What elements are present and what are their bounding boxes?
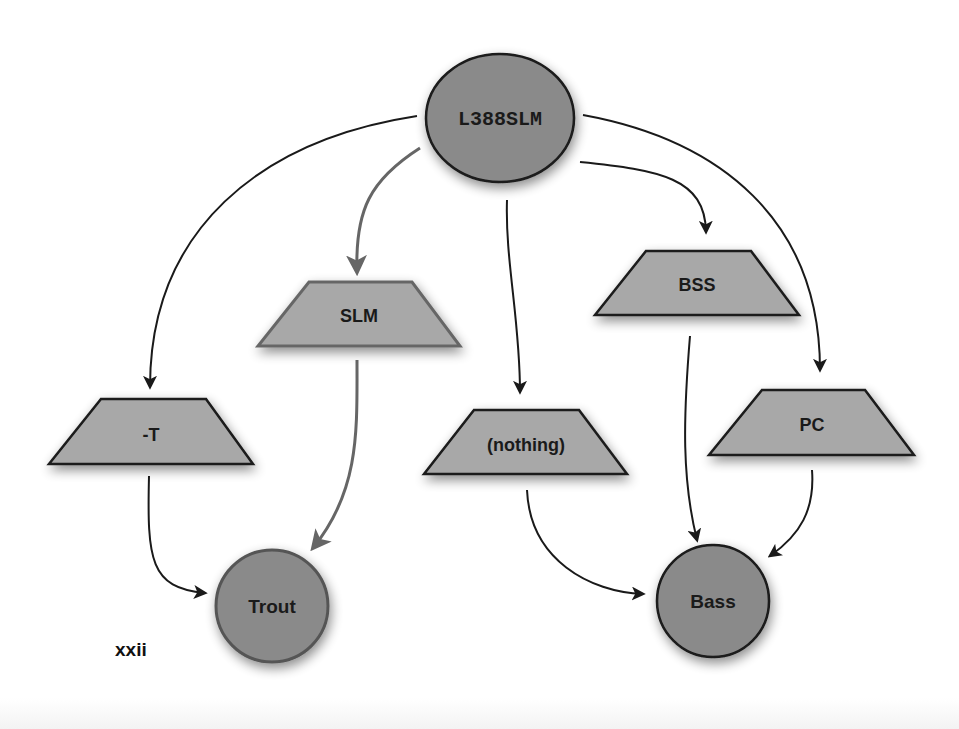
diagram-canvas: L388SLM -T SLM (nothing) BSS PC Trout — [0, 0, 959, 729]
edge-source-to-nothing — [507, 200, 520, 392]
node-source-label: L388SLM — [458, 108, 542, 131]
edge-source-to-pc — [583, 115, 820, 370]
edge-source-to-bss — [580, 162, 706, 232]
edge-slm-to-trout — [313, 360, 357, 548]
flow-diagram: L388SLM -T SLM (nothing) BSS PC Trout — [0, 0, 959, 729]
node-trout-label: Trout — [248, 596, 296, 617]
page-number: xxii — [115, 639, 147, 661]
edge-bss-to-bass — [685, 336, 697, 540]
edge-pc-to-bass — [770, 470, 812, 556]
filter-slm-label: SLM — [340, 306, 378, 326]
filter-t-label: -T — [143, 425, 160, 445]
filter-nothing-label: (nothing) — [487, 435, 565, 455]
edge-nothing-to-bass — [527, 490, 643, 594]
filter-bss-label: BSS — [678, 275, 715, 295]
edge-t-to-trout — [149, 476, 205, 593]
filter-pc-label: PC — [799, 415, 824, 435]
edge-source-to-slm — [357, 148, 420, 272]
node-bass-label: Bass — [690, 591, 735, 612]
